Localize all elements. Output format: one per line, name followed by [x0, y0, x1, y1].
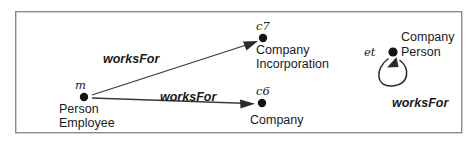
node-et-id: et [364, 45, 376, 59]
node-et[interactable]: et Company Person [364, 30, 455, 59]
node-et-label-line-1: Company [401, 30, 455, 44]
edge-m-to-c6-arrowhead [240, 100, 255, 109]
node-m-id: m [75, 78, 86, 92]
node-c7[interactable]: c7 Company Incorporation [256, 19, 329, 71]
node-m-label-line-2: Employee [59, 116, 115, 130]
node-c7-label-line-2: Incorporation [256, 57, 329, 71]
node-c6-label-line-1: Company [250, 113, 304, 127]
node-c7-label-line-1: Company [256, 43, 310, 57]
diagram-svg: worksFor worksFor worksFor m Person Empl… [0, 0, 476, 144]
node-c7-dot [259, 34, 267, 42]
node-et-label-line-2: Person [401, 45, 441, 59]
node-c6[interactable]: c6 Company [250, 84, 304, 127]
node-c6-dot [258, 99, 266, 107]
edge-m-to-c6-label: worksFor [160, 90, 217, 104]
edge-m-to-c7-label: worksFor [103, 52, 160, 66]
node-m-label-line-1: Person [59, 102, 99, 116]
edge-et-self-loop[interactable]: worksFor [379, 57, 450, 110]
edge-et-self-loop-arrowhead [387, 57, 399, 68]
diagram-canvas: worksFor worksFor worksFor m Person Empl… [0, 0, 476, 144]
edge-m-to-c7[interactable]: worksFor [92, 41, 258, 95]
node-c6-id: c6 [256, 84, 270, 98]
node-c7-id: c7 [256, 19, 270, 33]
edge-m-to-c7-line [92, 43, 254, 96]
node-m-dot [80, 93, 88, 101]
node-et-dot [388, 47, 397, 56]
edge-m-to-c6[interactable]: worksFor [92, 90, 255, 109]
edge-et-self-loop-label: worksFor [392, 96, 449, 110]
node-m[interactable]: m Person Employee [59, 78, 115, 130]
